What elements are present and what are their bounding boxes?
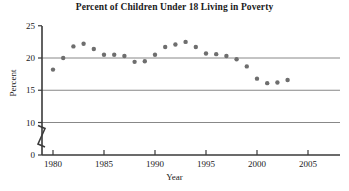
x-tick-label: 1995	[197, 159, 216, 169]
data-point	[163, 45, 167, 49]
data-point	[81, 42, 85, 46]
data-point	[143, 59, 147, 63]
y-tick-label: 0	[31, 150, 36, 160]
gridlines-group	[42, 58, 340, 123]
data-point	[234, 57, 238, 61]
data-point	[71, 44, 75, 48]
data-point	[224, 54, 228, 58]
plot-area: 010152025 198019851990199520002005	[0, 0, 349, 191]
x-tick-label: 1980	[44, 159, 63, 169]
data-point	[275, 80, 279, 84]
data-point	[245, 64, 249, 68]
x-tick-label: 2000	[248, 159, 267, 169]
data-point	[183, 40, 187, 44]
y-tick-label: 10	[26, 118, 36, 128]
data-point	[61, 56, 65, 60]
x-tick-label: 2005	[299, 159, 318, 169]
poverty-scatter-chart: Percent of Children Under 18 Living in P…	[0, 0, 349, 191]
data-point	[214, 52, 218, 56]
data-point	[173, 42, 177, 46]
data-point	[112, 53, 116, 57]
data-point	[204, 51, 208, 55]
y-tick-label: 15	[26, 85, 36, 95]
data-point	[51, 67, 55, 71]
y-tick-label: 20	[26, 53, 36, 63]
data-point	[265, 81, 269, 85]
x-tick-label: 1985	[95, 159, 114, 169]
data-points-group	[51, 40, 290, 86]
x-axis-ticks: 198019851990199520002005	[44, 150, 318, 169]
x-tick-label: 1990	[146, 159, 165, 169]
data-point	[122, 54, 126, 58]
data-point	[285, 78, 289, 82]
data-point	[102, 53, 106, 57]
data-point	[92, 47, 96, 51]
y-tick-label: 25	[26, 21, 36, 31]
data-point	[132, 60, 136, 64]
data-point	[255, 76, 259, 80]
data-point	[194, 45, 198, 49]
data-point	[153, 53, 157, 57]
